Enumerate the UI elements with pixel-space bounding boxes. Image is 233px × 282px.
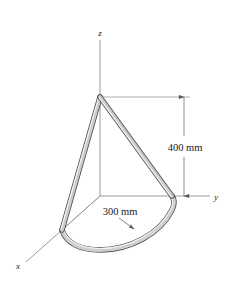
rod-right-highlight (99, 98, 171, 197)
y-axis-label: y (213, 192, 218, 202)
dimension-400mm-label: 400 mm (168, 142, 203, 153)
dimension-300mm-leader (119, 218, 134, 229)
dimension-400mm: 400 mm (163, 97, 208, 196)
dimension-300mm: 300 mm (93, 203, 147, 229)
z-axis-label: z (97, 28, 102, 38)
bent-rod-diagram: z y x 400 m (0, 0, 233, 282)
rod-right-fill (100, 97, 172, 196)
rod-right-segment (99, 97, 172, 197)
dimension-300mm-label: 300 mm (103, 206, 138, 217)
figure-canvas: z y x 400 m (0, 0, 233, 282)
x-axis-label: x (15, 261, 20, 271)
